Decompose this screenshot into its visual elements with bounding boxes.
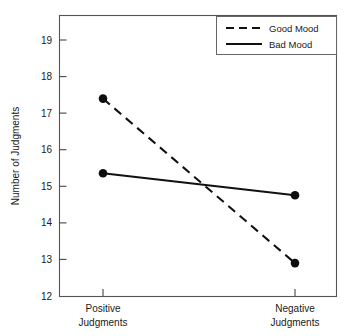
y-tick-label-17: 17: [41, 108, 53, 119]
x-label-negative-line2: Judgments: [271, 317, 320, 328]
good-mood-point-negative: [291, 259, 300, 268]
bad-mood-point-negative: [291, 191, 300, 200]
y-tick-label-19: 19: [41, 35, 53, 46]
x-label-positive-line2: Judgments: [79, 317, 128, 328]
y-tick-label-12: 12: [41, 291, 53, 302]
y-tick-label-16: 16: [41, 144, 53, 155]
line-chart: 19 18 17 16 15 14 13 12 Number of Judgme…: [0, 0, 353, 336]
y-tick-label-18: 18: [41, 71, 53, 82]
x-label-positive-line1: Positive: [85, 303, 120, 314]
legend-label-good-mood: Good Mood: [269, 23, 319, 34]
x-label-negative-line1: Negative: [275, 303, 315, 314]
good-mood-point-positive: [99, 94, 108, 103]
bad-mood-point-positive: [99, 169, 108, 178]
y-tick-label-15: 15: [41, 181, 53, 192]
y-axis-title: Number of Judgments: [10, 107, 21, 205]
y-tick-label-13: 13: [41, 254, 53, 265]
legend-label-bad-mood: Bad Mood: [269, 39, 312, 50]
y-tick-label-14: 14: [41, 217, 53, 228]
legend: Good Mood Bad Mood: [217, 17, 337, 55]
